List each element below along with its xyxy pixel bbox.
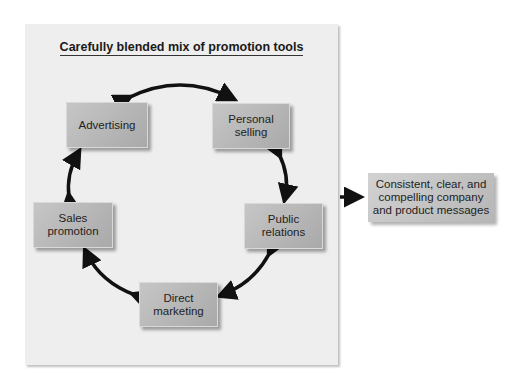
tool-advertising: Advertising: [66, 102, 148, 148]
arrow-personal-selling-public-relations: [279, 154, 287, 198]
arrow-sales-promotion-advertising: [68, 153, 78, 197]
arrow-public-relations-direct-marketing: [222, 252, 270, 295]
tool-direct-marketing: Direct marketing: [139, 282, 218, 327]
tool-label: Direct marketing: [153, 292, 204, 318]
tool-public-relations: Public relations: [244, 203, 323, 249]
arrow-advertising-personal-selling: [128, 85, 232, 98]
tool-sales-promotion: Sales promotion: [33, 202, 113, 248]
arrow-direct-marketing-sales-promotion: [86, 252, 135, 295]
output-messages-box: Consistent, clear, and compelling compan…: [368, 173, 494, 222]
tool-label: Sales promotion: [47, 212, 98, 238]
tool-label: Personal selling: [228, 113, 273, 139]
tool-label: Public relations: [262, 213, 305, 239]
output-label: Consistent, clear, and compelling compan…: [373, 178, 489, 217]
tool-personal-selling: Personal selling: [212, 103, 290, 149]
tool-label: Advertising: [79, 119, 136, 132]
